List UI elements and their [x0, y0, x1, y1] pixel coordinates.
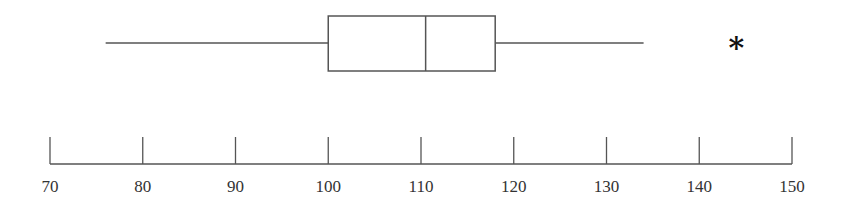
- boxplot-chart: * 708090100110120130140150: [0, 0, 858, 219]
- tick-label: 130: [594, 177, 620, 196]
- tick-label: 110: [409, 177, 434, 196]
- tick-label: 90: [227, 177, 244, 196]
- tick-label: 120: [501, 177, 527, 196]
- tick-label: 140: [687, 177, 713, 196]
- box-plot: *: [106, 16, 745, 71]
- x-axis: 708090100110120130140150: [42, 137, 805, 196]
- iqr-box: [328, 16, 495, 71]
- tick-label: 100: [316, 177, 342, 196]
- tick-label: 150: [779, 177, 805, 196]
- tick-label: 80: [134, 177, 151, 196]
- tick-label: 70: [42, 177, 59, 196]
- outlier-marker: *: [728, 30, 744, 65]
